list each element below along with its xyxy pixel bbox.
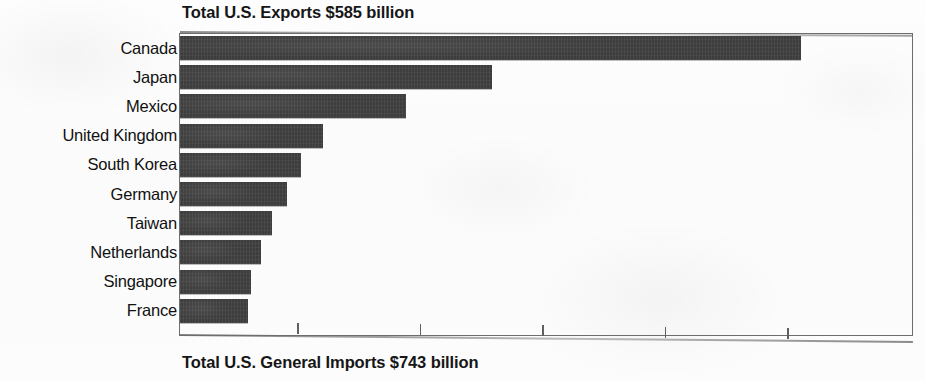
bar-chart: Total U.S. Exports $585 billion CanadaJa…	[0, 0, 925, 381]
category-label-canada: Canada	[120, 40, 177, 57]
bar-japan	[180, 65, 492, 89]
category-label-netherlands: Netherlands	[90, 244, 177, 261]
category-label-south-korea: South Korea	[87, 156, 177, 173]
bar-netherlands	[180, 240, 261, 264]
category-label-france: France	[127, 302, 177, 319]
bar-singapore	[180, 270, 251, 294]
bar-germany	[180, 182, 287, 206]
x-axis-tick-3	[542, 325, 544, 336]
bar-taiwan	[180, 211, 272, 235]
category-label-taiwan: Taiwan	[127, 215, 177, 232]
bar-south-korea	[180, 153, 301, 177]
bar-mexico	[180, 94, 406, 118]
category-label-mexico: Mexico	[126, 98, 177, 115]
bar-canada	[180, 36, 801, 60]
x-axis-tick-4	[665, 327, 667, 338]
category-label-united-kingdom: United Kingdom	[62, 127, 177, 144]
chart-title: Total U.S. Exports $585 billion	[182, 3, 414, 22]
x-axis-tick-5	[787, 328, 789, 339]
category-label-germany: Germany	[111, 186, 177, 203]
x-axis-tick-1	[297, 323, 299, 334]
bar-france	[180, 299, 248, 323]
bar-united-kingdom	[180, 124, 323, 148]
category-label-japan: Japan	[133, 69, 177, 86]
category-label-singapore: Singapore	[104, 273, 177, 290]
x-axis-tick-2	[420, 324, 422, 335]
chart-footer-caption: Total U.S. General Imports $743 billion	[182, 353, 479, 372]
